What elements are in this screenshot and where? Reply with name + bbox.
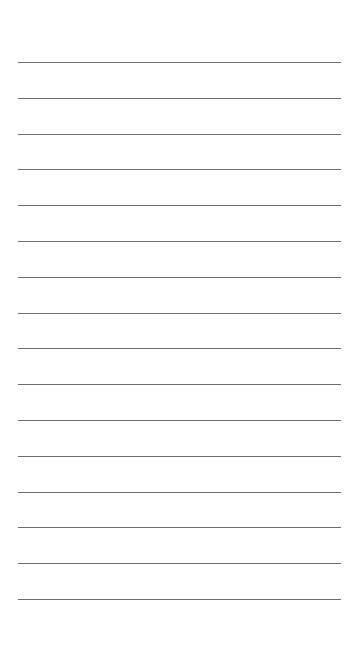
ruled-line [18, 563, 341, 564]
ruled-line [18, 62, 341, 63]
ruled-line [18, 98, 341, 99]
ruled-line [18, 420, 341, 421]
ruled-line [18, 241, 341, 242]
ruled-line [18, 527, 341, 528]
ruled-line [18, 134, 341, 135]
ruled-line [18, 384, 341, 385]
ruled-line [18, 169, 341, 170]
ruled-line [18, 313, 341, 314]
ruled-line [18, 492, 341, 493]
ruled-line [18, 599, 341, 600]
ruled-line [18, 348, 341, 349]
ruled-line [18, 456, 341, 457]
ruled-line [18, 277, 341, 278]
ruled-line [18, 205, 341, 206]
